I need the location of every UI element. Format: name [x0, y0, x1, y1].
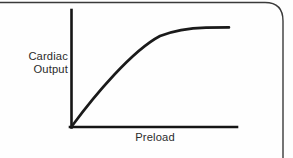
x-axis-label: Preload	[105, 131, 205, 144]
frank-starling-curve	[72, 27, 229, 126]
y-axis-label-line2: Output	[18, 63, 68, 76]
y-axis-label: Cardiac Output	[18, 50, 68, 75]
figure-canvas: Cardiac Output Preload	[0, 0, 293, 158]
y-axis-label-line1: Cardiac	[18, 50, 68, 63]
